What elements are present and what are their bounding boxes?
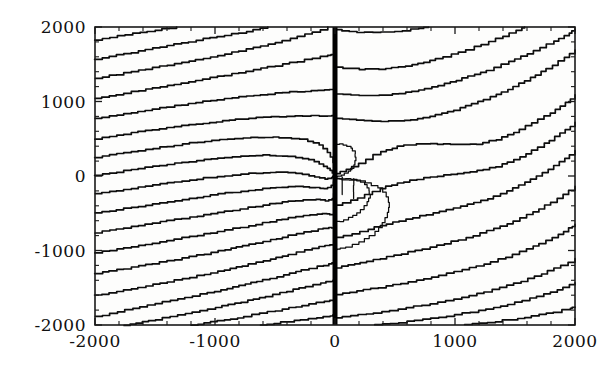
- y-tick-label: -2000: [34, 315, 86, 335]
- y-tick-label: 1000: [41, 92, 86, 112]
- x-tick-label: 0: [329, 331, 340, 351]
- contour-plot-figure: -2000-1000010002000-2000-1000010002000: [0, 0, 608, 374]
- x-tick-label: 1000: [432, 331, 477, 351]
- y-tick-label: 0: [75, 166, 86, 186]
- y-tick-label: -1000: [34, 241, 86, 261]
- y-tick-label: 2000: [41, 17, 86, 37]
- x-tick-label: 2000: [552, 331, 597, 351]
- x-tick-label: -1000: [189, 331, 241, 351]
